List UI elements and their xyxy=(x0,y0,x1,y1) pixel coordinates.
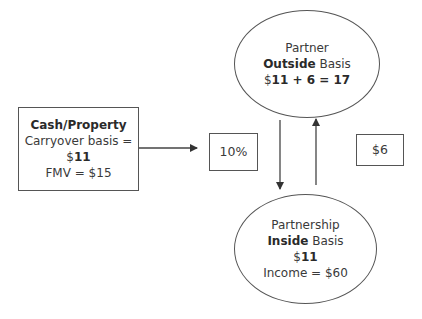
diagram-canvas: Cash/Property Carryover basis = $11 FMV … xyxy=(0,0,422,319)
partnership-inside-basis-ellipse: Partnership Inside Basis $11 Income = $6… xyxy=(234,194,377,304)
partnership-income-value: Income = $60 xyxy=(263,265,348,281)
carryover-basis-label: Carryover basis = xyxy=(25,133,133,149)
outside-basis-value: $11 + 6 = 17 xyxy=(264,72,350,88)
fmv-value: FMV = $15 xyxy=(45,165,111,181)
partner-label: Partner xyxy=(285,40,329,56)
inside-basis-value: $11 xyxy=(293,249,317,265)
partnership-label: Partnership xyxy=(271,217,339,233)
interest-percent-box: 10% xyxy=(209,133,258,171)
interest-percent-label: 10% xyxy=(220,144,248,160)
cash-property-box: Cash/Property Carryover basis = $11 FMV … xyxy=(18,107,139,191)
carryover-basis-value: $11 xyxy=(66,149,90,165)
partner-outside-basis-ellipse: Partner Outside Basis $11 + 6 = 17 xyxy=(234,10,380,118)
cash-property-title: Cash/Property xyxy=(30,117,126,133)
outside-basis-label: Outside Basis xyxy=(263,56,351,72)
income-share-label: $6 xyxy=(372,142,388,158)
income-share-box: $6 xyxy=(356,134,404,166)
inside-basis-label: Inside Basis xyxy=(267,233,343,249)
